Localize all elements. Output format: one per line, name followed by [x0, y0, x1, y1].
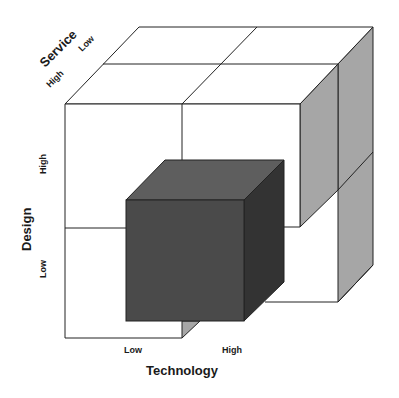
technology-axis-labels: Low High Technology: [124, 345, 242, 378]
service-high-label: High: [44, 68, 65, 89]
design-low-label: Low: [38, 259, 48, 278]
highlighted-cube: [126, 160, 284, 321]
technology-high-label: High: [222, 345, 242, 355]
technology-axis-title: Technology: [146, 363, 219, 378]
service-low-label: Low: [76, 33, 97, 54]
back-right-side-face: [338, 27, 373, 302]
technology-low-label: Low: [124, 345, 143, 355]
design-high-label: High: [38, 154, 48, 174]
design-axis-labels: Design High Low: [19, 154, 48, 278]
dark-cube-front: [126, 200, 244, 321]
service-axis-title: Service: [37, 27, 80, 70]
design-axis-title: Design: [19, 208, 34, 251]
cube-matrix-diagram: Service High Low Design High Low Low Hig…: [0, 0, 399, 398]
